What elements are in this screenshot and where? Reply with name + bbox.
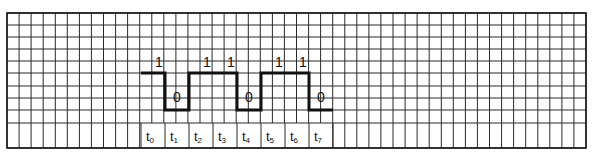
bit-label: 1 [203,54,211,70]
time-label-t6: t6 [290,129,299,145]
bit-value-labels: 10110110 [155,54,325,105]
time-label-t5: t5 [266,129,275,145]
digital-signal-waveform [141,73,333,110]
bit-label: 0 [245,89,253,105]
bit-label: 1 [275,54,283,70]
time-label-t0: t0 [146,129,155,145]
bit-label: 0 [173,89,181,105]
bit-label: 1 [227,54,235,70]
bit-label: 1 [299,54,307,70]
time-label-t1: t1 [170,129,179,145]
time-label-t2: t2 [194,129,203,145]
time-slot-labels: t0t1t2t3t4t5t6t7 [146,129,323,145]
timing-diagram: 10110110 t0t1t2t3t4t5t6t7 [0,0,594,161]
time-label-t4: t4 [242,129,251,145]
bit-label: 1 [155,54,163,70]
grid-background [7,13,586,148]
time-label-t7: t7 [314,129,323,145]
time-label-t3: t3 [218,129,227,145]
bit-label: 0 [317,89,325,105]
